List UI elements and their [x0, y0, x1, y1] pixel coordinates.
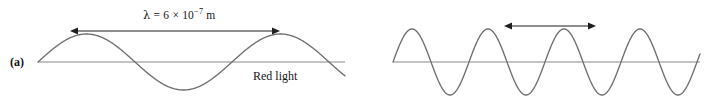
coefficient-value: 6 — [163, 9, 169, 21]
panel-ultraviolet: (b) λ = 3 × 10−7 m Ultraviolet radiation — [354, 0, 708, 110]
caption-red-light: Red light — [253, 70, 297, 82]
panel-label-a: (a) — [10, 56, 24, 68]
wavelength-comparison-figure: (a) λ = 6 × 10−7 m Red light — [0, 0, 708, 110]
wavelength-equation-a: λ = 6 × 10−7 m — [143, 10, 215, 22]
panel-red-light: (a) λ = 6 × 10−7 m Red light — [0, 0, 354, 110]
lambda-symbol: λ — [143, 8, 151, 22]
power-exponent: −7 — [194, 7, 203, 16]
ultraviolet-wave-graphic — [354, 0, 708, 110]
power-base: 10 — [182, 9, 194, 21]
unit-label: m — [206, 9, 215, 21]
equals-symbol: = — [154, 9, 161, 21]
multiplication-symbol: × — [172, 9, 179, 21]
